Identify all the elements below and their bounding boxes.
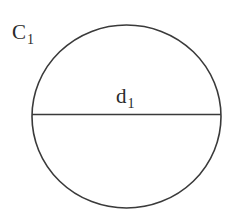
circle-label-subscript: 1: [27, 32, 34, 47]
diameter-label-subscript: 1: [128, 96, 135, 111]
circle-diagram: [0, 0, 240, 224]
circle-label-main: C: [12, 20, 26, 44]
circle-label: C1: [12, 22, 34, 43]
diameter-label-main: d: [116, 84, 127, 108]
diameter-label: d1: [116, 86, 135, 107]
circle-c1: [32, 25, 221, 208]
